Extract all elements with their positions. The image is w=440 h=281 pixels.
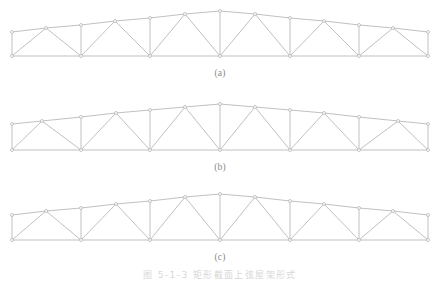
top-chord-member [81,21,115,25]
truss-joint-node [11,149,14,152]
truss-joint-node [358,207,361,210]
truss-joint-node [149,55,152,58]
top-chord-member [255,14,290,18]
truss-joint-node [358,149,361,152]
truss-joint-node [289,200,292,203]
web-diagonal-member [393,28,428,56]
subfigure-a: (a) [0,0,440,90]
truss-joint-node [80,207,83,210]
truss-joint-node [11,239,14,242]
web-diagonal-member [359,28,393,56]
web-diagonal-member [81,113,116,150]
truss-joint-node [392,210,395,213]
top-chord-member [290,110,324,113]
top-chord-member [359,208,393,211]
top-chord-member [359,25,393,28]
truss-joint-node [80,24,83,27]
truss-joint-node [358,55,361,58]
truss-joint-node [115,112,118,115]
top-chord-member [359,117,398,121]
truss-joint-node [149,149,152,152]
truss-joint-node [219,239,222,242]
truss-joint-node [254,13,257,16]
truss-members-b [12,104,428,150]
truss-joint-node [11,123,14,126]
top-chord-member [255,197,290,201]
truss-joint-node [41,120,44,123]
truss-joint-node [427,123,430,126]
web-diagonal-member [255,197,290,240]
web-diagonal-member [324,21,359,56]
top-chord-member [220,104,255,107]
top-chord-member [255,107,290,110]
truss-members-a [12,11,428,56]
web-diagonal-member [116,113,150,150]
top-chord-member [46,208,81,211]
top-chord-member [324,21,359,25]
top-chord-member [393,28,428,32]
subfigure-c-label: (c) [0,252,440,262]
web-diagonal-member [116,204,150,240]
top-chord-member [42,117,81,121]
web-diagonal-member [185,14,220,56]
web-diagonal-member [12,121,42,150]
truss-joint-node [289,55,292,58]
truss-diagram-a [0,4,440,66]
subfigure-b-label: (b) [0,162,440,172]
web-diagonal-member [185,197,220,240]
truss-joint-node [427,31,430,34]
truss-joint-node [219,103,222,106]
top-chord-member [12,28,46,32]
truss-joint-node [323,20,326,23]
truss-joint-node [397,120,400,123]
top-chord-member [393,211,428,215]
truss-joint-node [427,214,430,217]
web-diagonal-member [46,211,81,240]
truss-members-c [12,194,428,240]
web-diagonal-member [359,211,393,240]
web-diagonal-member [81,204,116,240]
truss-joint-node [427,55,430,58]
top-chord-member [220,11,255,14]
truss-joint-node [254,106,257,109]
truss-joint-node [289,109,292,112]
truss-joint-node [45,27,48,30]
top-chord-member [46,25,81,28]
web-diagonal-member [185,107,220,150]
truss-joint-node [114,20,117,23]
truss-joint-node [11,31,14,34]
top-chord-member [12,121,42,124]
truss-joint-node [289,239,292,242]
truss-joint-node [80,116,83,119]
truss-diagram-b [0,98,440,160]
truss-joint-node [149,200,152,203]
top-chord-member [290,201,324,204]
truss-joint-node [427,149,430,152]
truss-joint-node [80,55,83,58]
truss-joint-node [184,13,187,16]
web-diagonal-member [150,14,185,56]
web-diagonal-member [324,204,359,240]
subfigure-b: (b) [0,90,440,180]
truss-joint-node [289,149,292,152]
top-chord-member [290,18,324,21]
truss-joint-node [427,239,430,242]
truss-joint-node [358,239,361,242]
figure-page: (a) (b) (c) 图 5-1-3 矩形截面上弦屋架形式 [0,0,440,281]
truss-joint-node [184,196,187,199]
truss-joint-node [254,196,257,199]
truss-joint-node [115,203,118,206]
web-diagonal-member [290,21,324,56]
top-chord-member [398,121,428,124]
subfigure-a-label: (a) [0,68,440,78]
truss-joint-node [323,112,326,115]
top-chord-member [12,211,46,215]
truss-diagram-c [0,188,440,250]
truss-joint-node [149,109,152,112]
web-diagonal-member [12,211,46,240]
web-diagonal-member [42,121,81,150]
web-diagonal-member [255,14,290,56]
truss-joint-node [184,106,187,109]
top-chord-member [185,104,220,107]
top-chord-member [116,201,150,204]
